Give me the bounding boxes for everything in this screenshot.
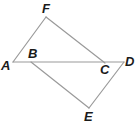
point-label-f: F xyxy=(42,1,51,16)
point-label-c: C xyxy=(100,62,110,77)
geometry-diagram: ABCDEF xyxy=(0,0,139,124)
point-label-d: D xyxy=(125,54,135,69)
segment-fc xyxy=(46,17,105,63)
point-label-e: E xyxy=(84,109,93,124)
point-label-b: B xyxy=(28,46,37,61)
segment-be xyxy=(31,62,89,108)
point-label-a: A xyxy=(0,58,10,73)
